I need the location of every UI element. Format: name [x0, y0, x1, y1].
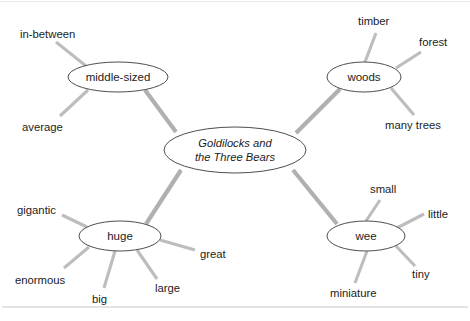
node-middle-sized[interactable]: middle-sized: [68, 62, 168, 92]
spoke-center-middle-sized: [145, 90, 176, 132]
leaf-label-small[interactable]: small: [370, 183, 396, 195]
diagram-canvas: Goldilocks and the Three Bears middle-si…: [0, 0, 470, 321]
spoke-wee-miniature: [355, 251, 367, 283]
woods-label: woods: [346, 71, 380, 83]
spoke-huge-big: [104, 251, 115, 288]
leaf-label-big[interactable]: big: [92, 293, 107, 305]
leaf-label-gigantic[interactable]: gigantic: [17, 204, 56, 216]
middle-sized-label: middle-sized: [86, 71, 151, 83]
spoke-wee-small: [366, 200, 380, 221]
spoke-middle-sized-average: [60, 90, 88, 116]
leaf-label-large[interactable]: large: [155, 282, 180, 294]
spoke-woods-timber: [365, 33, 376, 62]
spoke-center-huge: [146, 170, 181, 224]
spoke-woods-forest: [396, 52, 421, 68]
node-center-goldilocks[interactable]: Goldilocks and the Three Bears: [164, 127, 306, 173]
word-web-diagram: Goldilocks and the Three Bears middle-si…: [0, 0, 470, 321]
leaf-label-enormous[interactable]: enormous: [15, 274, 66, 286]
leaf-label-in-between[interactable]: in-between: [20, 28, 75, 40]
spoke-huge-great: [160, 240, 195, 250]
spoke-huge-large: [137, 250, 157, 279]
wee-label: wee: [354, 230, 376, 242]
spoke-huge-gigantic: [62, 215, 87, 227]
spoke-wee-tiny: [396, 246, 415, 266]
leaf-label-average[interactable]: average: [22, 121, 63, 133]
leaf-label-timber[interactable]: timber: [358, 15, 390, 27]
leaf-label-many-trees[interactable]: many trees: [385, 119, 441, 131]
huge-label: huge: [107, 230, 133, 242]
center-label-line1: Goldilocks and: [198, 137, 272, 149]
center-label-line2: the Three Bears: [195, 151, 276, 163]
leaf-label-little[interactable]: little: [428, 208, 448, 220]
spoke-middle-sized-in-between: [56, 42, 86, 66]
node-huge[interactable]: huge: [79, 221, 161, 251]
leaf-label-forest[interactable]: forest: [419, 36, 448, 48]
node-wee[interactable]: wee: [327, 221, 405, 251]
spoke-huge-enormous: [64, 247, 89, 268]
leaf-label-miniature[interactable]: miniature: [330, 287, 376, 299]
spoke-center-woods: [296, 89, 340, 133]
leaf-label-great[interactable]: great: [200, 248, 227, 260]
spoke-center-wee: [293, 170, 337, 224]
spoke-wee-little: [397, 214, 424, 228]
spoke-woods-many-trees: [391, 88, 414, 115]
leaf-label-tiny[interactable]: tiny: [412, 268, 430, 280]
center-ellipse: [164, 127, 306, 173]
node-woods[interactable]: woods: [327, 62, 401, 92]
